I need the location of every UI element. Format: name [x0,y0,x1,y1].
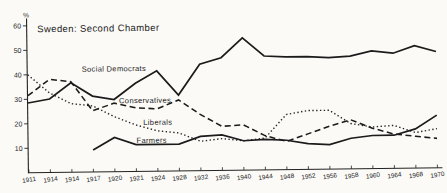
series-line-conservatives [28,75,437,145]
x-tick-label: 1948 [279,172,295,181]
scanned-chart-page: % Sweden: Second Chamber 102030405060191… [0,0,447,193]
series-label-social-democrats: Social Democrats [82,64,146,74]
x-tick-label: 1958 [344,171,360,180]
axes: 1020304050601911191419141917192019211924… [13,13,445,184]
x-tick-label: 1970 [430,170,446,179]
x-tick-label: 1921 [129,173,145,182]
y-tick-label: 50 [14,47,22,54]
x-tick-label: 1928 [172,173,188,182]
y-tick-label: 10 [15,145,23,152]
y-axis-unit-label: % [23,11,29,18]
x-tick-label: 1940 [236,172,252,181]
x-tick-label: 1956 [322,171,338,180]
series-label-farmers: Farmers [136,136,166,145]
x-tick-label: 1944 [258,172,274,181]
x-tick-label: 1932 [193,173,209,182]
series-labels: Social DemocratsConservativesLiberalsFar… [82,64,173,146]
chart-root: % Sweden: Second Chamber 102030405060191… [13,6,445,184]
x-tick-label: 1914 [43,175,59,184]
series-label-conservatives: Conservatives [119,96,171,106]
chart-title: Sweden: Second Chamber [37,22,159,34]
x-tick-label: 1911 [22,175,37,184]
x-tick-label: 1924 [150,173,166,182]
series-lines [27,36,437,151]
x-axis [28,168,442,173]
x-tick-label: 1917 [86,174,102,183]
y-tick-label: 60 [13,23,21,30]
x-tick-label: 1960 [365,171,381,180]
series-label-liberals: Liberals [143,118,172,127]
x-tick-label: 1968 [408,170,424,179]
y-tick-label: 40 [14,71,22,78]
x-tick-label: 1936 [215,172,231,181]
x-tick-label: 1914 [64,174,80,183]
x-tick-label: 1964 [387,170,403,179]
y-tick-label: 30 [14,96,22,103]
x-tick-label: 1952 [301,171,317,180]
y-tick-label: 20 [14,120,22,127]
x-tick-label: 1920 [107,174,123,183]
line-chart: % Sweden: Second Chamber 102030405060191… [0,0,447,193]
